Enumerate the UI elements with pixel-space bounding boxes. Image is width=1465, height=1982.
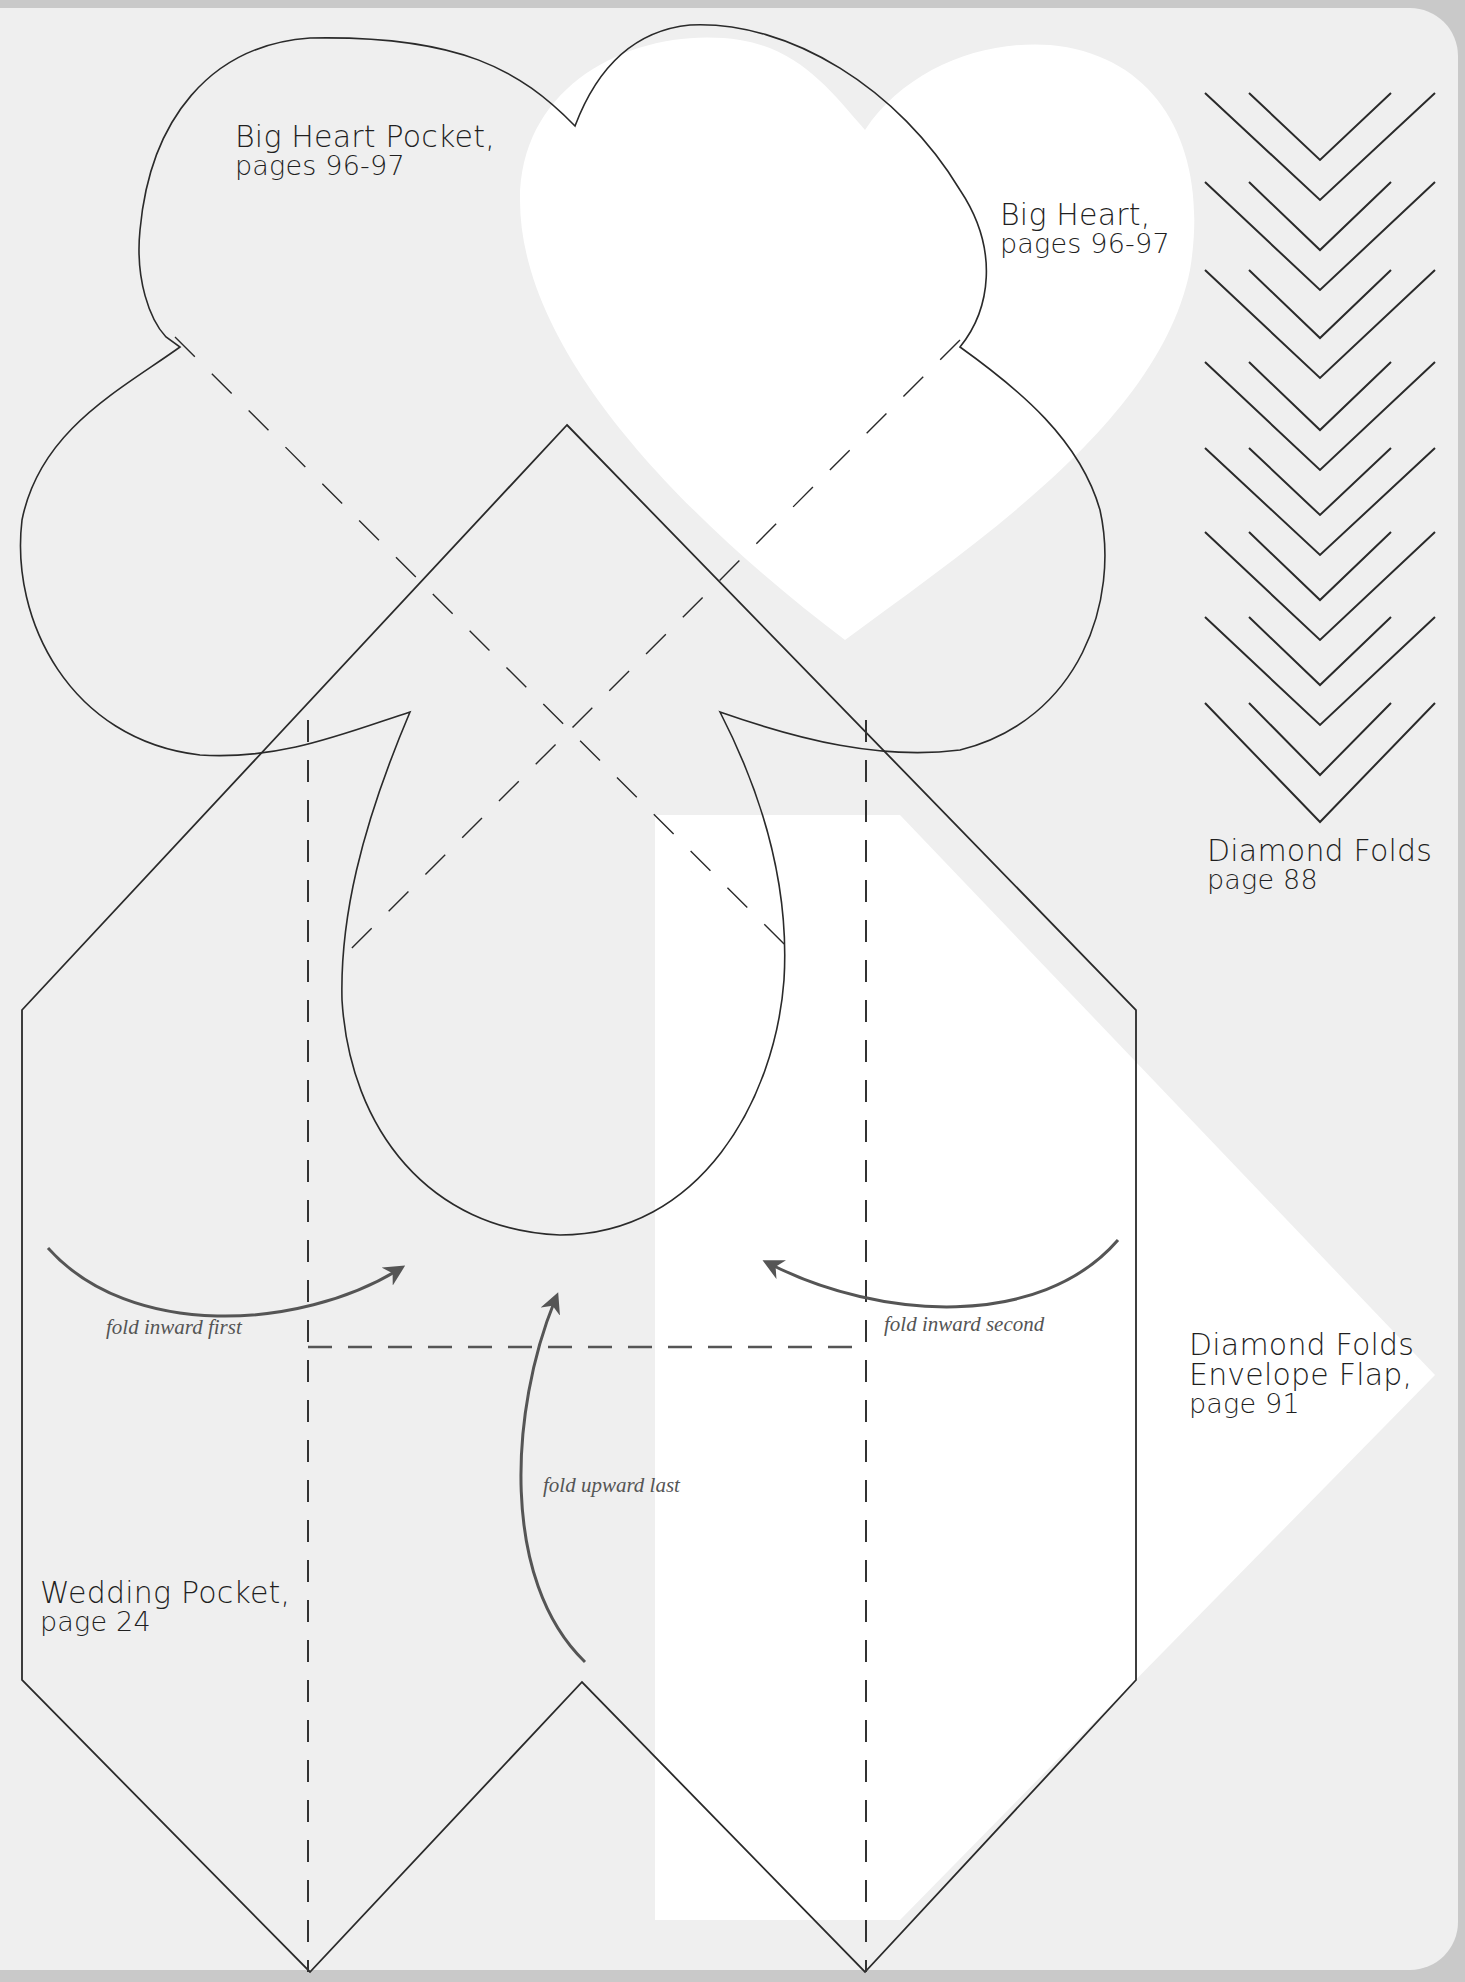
- diamond-folds-label: Diamond Folds page 88: [1207, 836, 1432, 893]
- arrow-fold-first: [48, 1248, 398, 1316]
- diamond-folds-flap-label: Diamond Folds Envelope Flap, page 91: [1189, 1330, 1414, 1417]
- big-heart-pocket-pages: pages 96-97: [235, 152, 495, 179]
- fold-last-note: fold upward last: [543, 1473, 680, 1498]
- big-heart-label: Big Heart, pages 96-97: [1000, 200, 1170, 257]
- diamond-folds-flap-title2: Envelope Flap,: [1189, 1360, 1414, 1390]
- diamond-folds-pages: page 88: [1207, 866, 1432, 893]
- big-heart-pages: pages 96-97: [1000, 230, 1170, 257]
- wedding-pocket-label: Wedding Pocket, page 24: [40, 1578, 290, 1635]
- big-heart-pocket-label: Big Heart Pocket, pages 96-97: [235, 122, 495, 179]
- template-artwork: [0, 0, 1465, 1982]
- diamond-folds-chevrons: [1205, 93, 1435, 822]
- fold-first-note: fold inward first: [106, 1315, 242, 1340]
- big-heart-pocket-title: Big Heart Pocket,: [235, 122, 495, 152]
- wedding-pocket-title: Wedding Pocket,: [40, 1578, 290, 1608]
- wedding-pocket-pages: page 24: [40, 1608, 290, 1635]
- big-heart-title: Big Heart,: [1000, 200, 1170, 230]
- diamond-folds-flap-pages: page 91: [1189, 1390, 1414, 1417]
- fold-second-note: fold inward second: [884, 1312, 1044, 1337]
- diamond-folds-title: Diamond Folds: [1207, 836, 1432, 866]
- big-heart-shape: [520, 38, 1194, 640]
- diamond-folds-flap-title1: Diamond Folds: [1189, 1330, 1414, 1360]
